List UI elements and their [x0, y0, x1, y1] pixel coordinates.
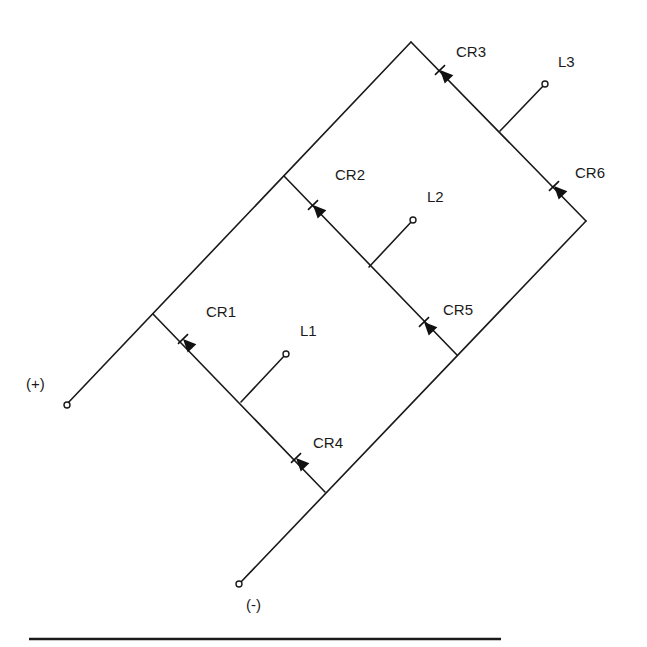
negative-terminal[interactable]	[236, 581, 242, 587]
positive-terminal-label: (+)	[26, 375, 45, 392]
load-l1-wire	[241, 354, 286, 402]
load-label-l3: L3	[558, 53, 575, 70]
diode-label-cr3: CR3	[456, 43, 486, 60]
diode-label-cr5: CR5	[443, 301, 473, 318]
circuit-diagram: (+) (-) CR1 CR2 CR3 CR4 CR5 CR6 L1 L2 L3	[0, 0, 647, 647]
positive-terminal[interactable]	[64, 402, 70, 408]
diode-label-cr2: CR2	[335, 166, 365, 183]
diode-label-cr4: CR4	[313, 434, 343, 451]
load-label-l1: L1	[300, 322, 317, 339]
load-l3-wire	[500, 84, 545, 131]
diode-cr1-triangle	[183, 339, 196, 353]
negative-rail	[240, 221, 586, 583]
load-l2-terminal[interactable]	[410, 217, 416, 223]
load-l2-wire	[369, 220, 413, 267]
diode-label-cr1: CR1	[206, 303, 236, 320]
diode-cr2-triangle	[313, 205, 326, 219]
load-l1-terminal[interactable]	[283, 351, 289, 357]
load-label-l2: L2	[427, 188, 444, 205]
diode-cr6-triangle	[554, 186, 567, 200]
diode-cr3-triangle	[440, 70, 453, 84]
diode-label-cr6: CR6	[575, 164, 605, 181]
positive-rail	[67, 42, 411, 404]
load-l3-terminal[interactable]	[542, 81, 548, 87]
negative-terminal-label: (-)	[246, 596, 261, 613]
